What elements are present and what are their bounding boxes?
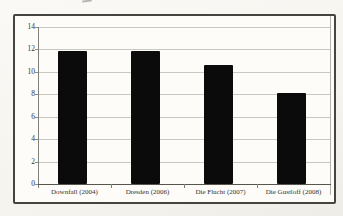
x-tick-1 [111, 184, 112, 188]
scan-artifact [82, 0, 92, 3]
y-tick-0 [35, 184, 38, 185]
bar-1 [58, 51, 87, 184]
x-axis-label-4: Die Gustloff (2008) [257, 187, 330, 198]
x-axis-label-3: Die Flucht (2007) [184, 187, 257, 198]
y-axis-label-12: 12 [16, 44, 35, 54]
scanned-chart-image: 02468101214 Downfall (2004)Dresden (2006… [0, 0, 343, 216]
y-axis-label-14: 14 [16, 22, 35, 32]
y-axis-label-10: 10 [16, 67, 35, 77]
bar-3 [204, 65, 233, 184]
y-axis-label-4: 4 [16, 134, 35, 144]
y-axis-line [38, 27, 39, 188]
y-tick-6 [35, 117, 38, 118]
x-axis-label-2: Dresden (2006) [111, 187, 184, 198]
plot-right-border [330, 16, 331, 195]
x-axis-labels: Downfall (2004)Dresden (2006)Die Flucht … [38, 187, 330, 198]
y-tick-2 [35, 162, 38, 163]
x-tick-2 [184, 184, 185, 188]
y-tick-10 [35, 72, 38, 73]
y-axis-label-6: 6 [16, 112, 35, 122]
x-axis-label-1: Downfall (2004) [38, 187, 111, 198]
y-axis-label-0: 0 [16, 179, 35, 189]
chart-frame: 02468101214 Downfall (2004)Dresden (2006… [13, 14, 336, 204]
y-tick-4 [35, 139, 38, 140]
y-tick-12 [35, 49, 38, 50]
y-tick-14 [35, 27, 38, 28]
x-tick-3 [257, 184, 258, 188]
y-axis-label-2: 2 [16, 157, 35, 167]
plot-area: 02468101214 [38, 27, 330, 184]
y-axis-label-8: 8 [16, 89, 35, 99]
gridline-14 [38, 27, 330, 28]
bar-2 [131, 51, 160, 184]
y-tick-8 [35, 94, 38, 95]
bar-4 [277, 93, 306, 184]
